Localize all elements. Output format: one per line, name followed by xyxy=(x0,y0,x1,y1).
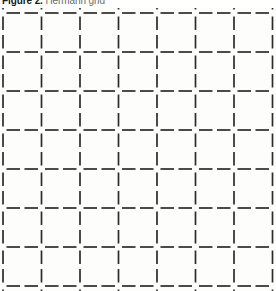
figure-caption-clipped: Figure 2. Hermann grid xyxy=(0,0,276,8)
cross-grid-svg xyxy=(0,8,276,291)
plate-background xyxy=(0,8,276,291)
figure-plate xyxy=(0,8,276,291)
figure-page: Figure 2. Hermann grid xyxy=(0,0,276,291)
figure-caption-rest: Hermann grid xyxy=(43,0,105,6)
figure-caption-label: Figure 2. xyxy=(2,0,43,6)
figure-caption-text: Figure 2. Hermann grid xyxy=(2,0,105,6)
